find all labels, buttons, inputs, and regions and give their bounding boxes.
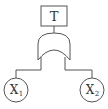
top-event-label: T bbox=[50, 9, 59, 24]
basic-event-x1: X 1 bbox=[4, 78, 28, 102]
connector-right bbox=[65, 57, 92, 78]
connector-left bbox=[16, 57, 41, 78]
svg-text:X: X bbox=[86, 83, 95, 97]
svg-text:1: 1 bbox=[19, 90, 23, 98]
fault-tree-diagram: T X 1 X 2 bbox=[0, 0, 108, 109]
svg-text:X: X bbox=[10, 83, 19, 97]
basic-event-x2: X 2 bbox=[80, 78, 104, 102]
or-gate-icon bbox=[38, 33, 70, 60]
svg-text:2: 2 bbox=[95, 90, 99, 98]
top-event: T bbox=[41, 6, 67, 26]
